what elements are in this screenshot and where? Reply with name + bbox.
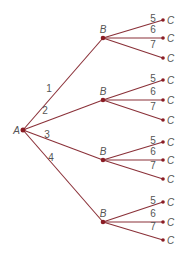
node-label-c: C [167,75,175,86]
a-node-dot [21,128,26,133]
c-node-dot [161,36,165,40]
node-label-a: A [12,125,20,136]
node-label-c: C [167,217,175,228]
edge-a-b1 [23,38,103,130]
c-node-dot [161,56,165,60]
b-node-dot [101,158,106,163]
node-label-b: B [100,208,107,219]
edge-label: 3 [44,129,50,140]
c-node-dot [161,140,165,144]
edge-label: 7 [150,160,156,171]
edge-label: 5 [150,195,156,206]
edge-label: 7 [150,101,156,112]
c-node-dot [161,158,165,162]
node-label-b: B [100,24,107,35]
node-label-c: C [167,15,175,26]
edge-label: 2 [42,105,48,116]
node-label-c: C [167,137,175,148]
c-node-dot [161,238,165,242]
edge-a-b4 [23,130,103,222]
node-label-c: C [167,95,175,106]
node-label-c: C [167,155,175,166]
node-label-c: C [167,53,175,64]
edge-label: 7 [150,221,156,232]
edge-label: 4 [48,152,54,163]
node-label-b: B [100,86,107,97]
edge-label: 6 [150,24,156,35]
node-label-c: C [167,115,175,126]
c-node-dot [161,200,165,204]
c-node-dot [161,118,165,122]
node-label-c: C [167,174,175,185]
tree-diagram: 15C6C7CB25C6C7CB35C6C7CB45C6C7CBA [0,0,187,260]
c-node-dot [161,177,165,181]
edge-a-b3 [23,130,103,160]
c-node-dot [161,18,165,22]
c-node-dot [161,98,165,102]
b-node-dot [101,98,106,103]
node-label-b: B [100,146,107,157]
edge-label: 1 [46,83,52,94]
edge-label: 5 [150,135,156,146]
node-label-c: C [167,33,175,44]
c-node-dot [161,220,165,224]
node-label-c: C [167,197,175,208]
b-node-dot [101,36,106,41]
edge-label: 6 [150,208,156,219]
c-node-dot [161,78,165,82]
edge-label: 6 [150,86,156,97]
edge-a-b2 [23,100,103,130]
node-label-c: C [167,235,175,246]
edge-label: 5 [150,73,156,84]
b-node-dot [101,220,106,225]
edge-label: 7 [150,39,156,50]
edge-label: 5 [150,13,156,24]
edge-label: 6 [150,146,156,157]
